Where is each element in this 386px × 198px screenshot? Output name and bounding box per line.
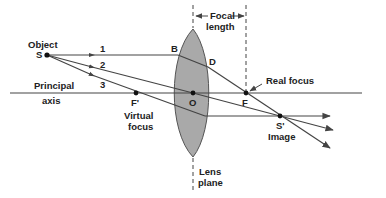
point-o-label: O	[189, 97, 196, 108]
lens-label: Lens	[199, 166, 221, 177]
plane-label: plane	[198, 177, 223, 188]
point-f-label: F	[242, 97, 248, 108]
image-label: Image	[268, 131, 295, 142]
focus-label: focus	[128, 121, 153, 132]
axis-label: axis	[42, 95, 61, 106]
focal-label: Focal	[210, 10, 235, 21]
lens-ray-diagram: Object S 1 2 3 Principal axis B D Focal …	[0, 0, 386, 198]
optical-center-point	[191, 91, 196, 96]
principal-label: Principal	[34, 80, 74, 91]
virtual-label: Virtual	[124, 110, 153, 121]
point-b-label: B	[171, 43, 178, 54]
real-focus-label: Real focus	[266, 75, 314, 86]
object-point-label: S	[36, 49, 42, 60]
point-f-prime-label: F'	[131, 97, 139, 108]
image-point-label: S'	[276, 120, 285, 131]
real-focus-point	[244, 91, 249, 96]
point-d-label: D	[209, 56, 216, 67]
ray-2-label: 2	[100, 59, 105, 70]
object-label: Object	[28, 39, 58, 50]
image-point-s-prime	[278, 114, 283, 119]
virtual-focus-point	[134, 91, 139, 96]
ray-1-label: 1	[100, 43, 106, 54]
object-point-s	[44, 52, 49, 57]
ray-3-label: 3	[100, 79, 105, 90]
real-focus-pointer	[250, 84, 262, 91]
length-label: length	[206, 21, 235, 32]
